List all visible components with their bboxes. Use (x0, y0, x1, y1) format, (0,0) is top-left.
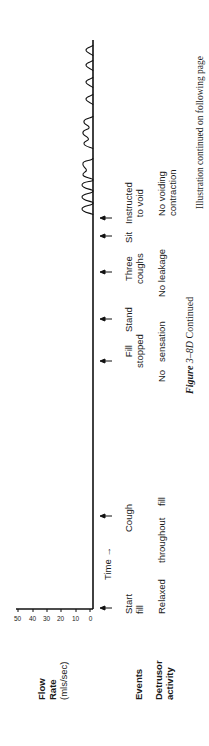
tick-label-10: 10 (72, 615, 79, 622)
figure-caption: Figure 3–8D Continued (184, 297, 195, 394)
detrusor-no-voiding-contraction: No voidingcontraction (156, 170, 178, 216)
detrusor-no-leakage: No leakage (156, 249, 167, 297)
rotated-figure-page: 50 40 30 20 10 0 Flow Rate (mls/sec) Eve… (0, 0, 209, 746)
continued-note: Illustration continued on following page (195, 56, 205, 209)
tick-label-0: 0 (89, 615, 93, 622)
arrow-right-icon: → (102, 547, 113, 557)
detrusor-fill: fill (156, 497, 167, 506)
event-sit: Sit (123, 232, 134, 243)
time-axis-label: Time → (102, 547, 113, 580)
detrusor-sensation: sensation (156, 321, 167, 362)
arrow-up-icon (100, 359, 112, 363)
tick-label-20: 20 (57, 615, 64, 622)
event-fill-stopped: Fillstopped (123, 334, 145, 368)
event-cough: Cough (123, 504, 134, 532)
events-row-label: Events (133, 669, 144, 700)
detrusor-throughout: throughout (156, 518, 167, 563)
flow-rate-label: Flow Rate (mls/sec) (36, 661, 69, 700)
arrow-up-icon (100, 317, 112, 321)
arrow-up-icon (100, 514, 112, 518)
detrusor-relaxed: Relaxed (156, 579, 167, 614)
event-stand: Stand (123, 307, 134, 332)
arrow-up-icon (100, 234, 112, 238)
arrow-up-icon (100, 216, 112, 220)
arrow-up-icon (100, 606, 112, 610)
arrow-up-icon (100, 270, 112, 274)
detrusor-no: No (156, 370, 167, 382)
tick-label-30: 30 (43, 615, 50, 622)
tick-label-50: 50 (14, 615, 21, 622)
event-start-fill: Startfill (123, 594, 145, 614)
flow-rate-chart (0, 0, 209, 746)
tick-label-40: 40 (29, 615, 36, 622)
event-instructed-to-void: Instructedto void (123, 182, 145, 224)
flow-waveform (82, 45, 93, 215)
detrusor-row-label: Detrusor activity (153, 660, 175, 700)
event-three-coughs: Threecoughs (123, 253, 145, 284)
